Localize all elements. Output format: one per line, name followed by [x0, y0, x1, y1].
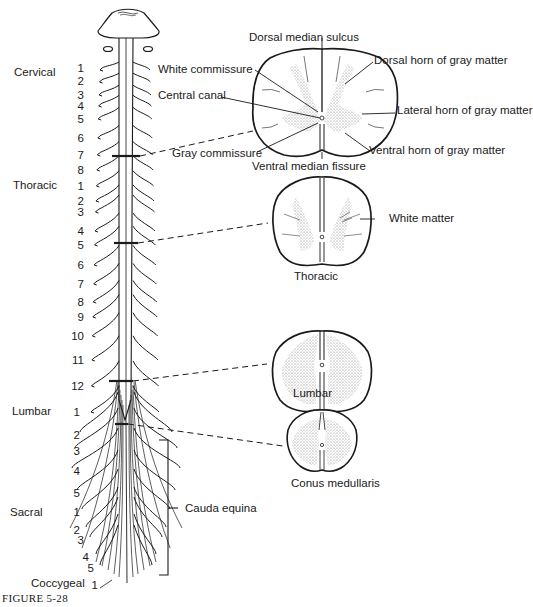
label-thoracic-section: Thoracic — [294, 271, 338, 283]
segment-number: 2 — [64, 430, 80, 442]
label-lumbar-section: Lumbar — [293, 388, 332, 400]
segment-number: 1 — [68, 63, 84, 75]
region-label-lumbar: Lumbar — [12, 406, 51, 418]
segment-number: 5 — [78, 563, 94, 575]
segment-number: 3 — [64, 446, 80, 458]
segment-number: 8 — [68, 297, 84, 309]
label-conus-medullaris: Conus medullaris — [291, 478, 380, 490]
label-ventral-median-fissure: Ventral median fissure — [252, 161, 366, 173]
segment-number: 7 — [68, 150, 84, 162]
thoracic-cross-section — [273, 177, 375, 266]
segment-number: 1 — [68, 181, 84, 193]
region-label-thoracic: Thoracic — [13, 180, 57, 192]
label-ventral-horn: Ventral horn of gray matter — [369, 145, 505, 157]
segment-number: 5 — [68, 240, 84, 252]
region-label-sacral: Sacral — [10, 507, 43, 519]
segment-number: 8 — [68, 165, 84, 177]
label-gray-commissure: Gray commissure — [172, 148, 262, 160]
brainstem-icon — [98, 9, 159, 51]
segment-number: 3 — [68, 535, 84, 547]
segment-number: 5 — [68, 114, 84, 126]
segment-number: 3 — [68, 207, 84, 219]
cauda-equina-bracket — [159, 440, 178, 575]
label-dorsal-median-sulcus: Dorsal median sulcus — [249, 32, 359, 44]
label-white-matter: White matter — [389, 213, 454, 225]
coccygeal-leader — [100, 580, 112, 588]
figure-caption: FIGURE 5-28 — [2, 592, 68, 604]
segment-number: 4 — [68, 226, 84, 238]
label-dorsal-horn: Dorsal horn of gray matter — [374, 55, 508, 67]
region-label-cervical: Cervical — [14, 67, 56, 79]
segment-number: 5 — [64, 488, 80, 500]
segment-number: 7 — [68, 279, 84, 291]
label-lateral-horn: Lateral horn of gray matter — [397, 105, 533, 117]
region-label-coccygeal: Coccygeal — [31, 578, 85, 590]
label-white-commissure: White commissure — [158, 64, 253, 76]
segment-number: 9 — [68, 312, 84, 324]
segment-number: 4 — [68, 101, 84, 113]
segment-number: 11 — [68, 355, 84, 367]
segment-number: 4 — [64, 466, 80, 478]
segment-number: 1 — [64, 507, 80, 519]
conus-medullaris-cross-section — [287, 410, 357, 471]
label-cauda-equina: Cauda equina — [185, 503, 257, 515]
segment-number: 4 — [73, 552, 89, 564]
segment-number: 10 — [68, 331, 84, 343]
dashed-leaders — [128, 131, 283, 446]
spinal-cord-shaft — [119, 38, 133, 583]
segment-number: 1 — [82, 580, 98, 592]
segment-number: 2 — [68, 76, 84, 88]
segment-number: 1 — [64, 407, 80, 419]
cervical-cross-section — [221, 38, 397, 159]
segment-number: 6 — [68, 133, 84, 145]
label-central-canal: Central canal — [158, 90, 226, 102]
segment-number: 12 — [68, 381, 84, 393]
segment-number: 6 — [68, 260, 84, 272]
